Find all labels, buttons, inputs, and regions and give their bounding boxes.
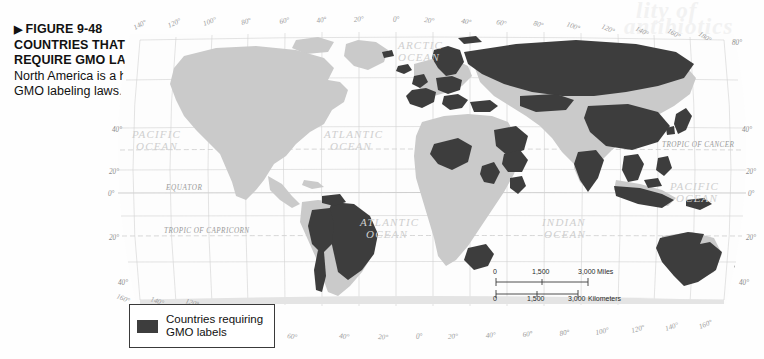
figure-number: FIGURE 9-48 [26,22,103,36]
lon-tick-top-12: 100° [565,20,581,32]
lon-tick-top-4: 60° [279,16,291,26]
lon-tick-bot-12: 80° [559,328,571,338]
ocean-label-atlantic-north-line2: OCEAN [330,140,372,152]
legend-swatch-highlighted [137,320,158,333]
scale-miles-tick-1: 1,500 [532,268,550,275]
lon-tick-top-11: 80° [532,19,544,30]
legend-text-line1: Countries requiring [166,313,263,327]
ocean-label-pacific-east-line1: PACIFIC [131,128,181,140]
lat-tick-left-4: 40° [118,279,128,287]
ocean-label-pacific-west-line2: OCEAN [676,192,718,204]
lon-tick-top-2: 100° [202,16,218,28]
legend-text: Countries requiring GMO labels [166,313,263,340]
lon-tick-top-1: 120° [167,17,183,30]
scale-miles-unit: Miles [597,268,613,275]
lon-tick-bot-13: 100° [595,326,610,337]
world-map: ARCTIC OCEAN PACIFIC OCEAN ATLANTIC OCEA… [96,4,764,354]
lat-tick-right-1: 40° [742,126,752,134]
lon-tick-top-8: 20° [424,16,435,25]
lon-tick-top-3: 80° [240,16,252,27]
scale-km-tick-1: 1,500 [527,295,545,302]
lon-tick-bot-11: 60° [522,330,533,339]
lat-tick-right-0: 80° [732,39,742,47]
lon-tick-bot-9: 20° [448,332,459,341]
lon-tick-bot-16: 160° [698,318,714,331]
figure-page: lity of antibiotics ▶ FIGURE 9-48 COUNTR… [0,0,764,359]
lat-tick-right-2: 20° [746,168,756,176]
label-equator: EQUATOR [165,184,203,192]
lon-tick-bot-8: 0° [416,333,423,341]
lon-tick-bot-14: 120° [630,323,645,334]
ocean-label-atlantic-south-line2: OCEAN [366,228,408,240]
lat-tick-right-4: 20° [746,234,756,242]
scale-km-unit: Kilometers [588,295,621,302]
ocean-label-arctic-line2: OCEAN [398,51,440,63]
lon-tick-bot-7: 20° [378,333,389,342]
lon-tick-top-9: 40° [461,17,472,27]
caption-arrow-icon: ▶ [14,23,22,35]
lat-tick-left-0: 40° [112,126,122,134]
lat-tick-left-3: 20° [109,234,119,242]
label-tropic-of-cancer: TROPIC OF CANCER [662,141,734,149]
ocean-label-pacific-west-line1: PACIFIC [669,180,719,192]
map-legend: Countries requiring GMO labels [129,304,275,348]
lon-tick-top-7: 0° [393,16,400,24]
lon-tick-top-5: 40° [316,15,327,25]
lat-tick-right-5: 40° [739,279,749,287]
lon-tick-top-10: 60° [496,18,508,28]
lon-tick-top-0: 140° [132,18,148,32]
ocean-label-pacific-east-line2: OCEAN [136,140,178,152]
legend-text-line2: GMO labels [166,326,263,340]
lon-tick-bot-6: 40° [339,332,350,341]
ocean-label-indian-line2: OCEAN [544,228,586,240]
scale-miles-tick-0: 0 [493,268,497,275]
lon-tick-top-13: 120° [600,23,616,36]
ocean-label-indian-line1: INDIAN [541,216,586,228]
ocean-label-atlantic-south-line1: ATLANTIC [359,216,419,228]
scale-km-tick-0: 0 [493,295,497,302]
lat-tick-left-1: 20° [109,168,119,176]
map-scale-bar: 0 1,500 3,000 Miles 0 1,500 3,000 Kilome… [492,270,627,302]
lat-tick-left-2: 0° [108,190,115,198]
ocean-label-arctic-line1: ARCTIC [397,39,443,51]
ocean-label-atlantic-north-line1: ATLANTIC [323,128,383,140]
lon-tick-bot-10: 40° [485,331,496,340]
lat-tick-right-3: 0° [748,190,755,198]
scale-miles-tick-2: 3,000 [578,268,596,275]
lon-tick-bot-5: 60° [287,332,298,341]
lon-tick-top-6: 20° [353,15,364,24]
lon-tick-bot-15: 140° [664,321,680,333]
scale-km-tick-2: 3,000 [568,295,586,302]
label-tropic-of-capricorn: TROPIC OF CAPRICORN [164,227,250,235]
